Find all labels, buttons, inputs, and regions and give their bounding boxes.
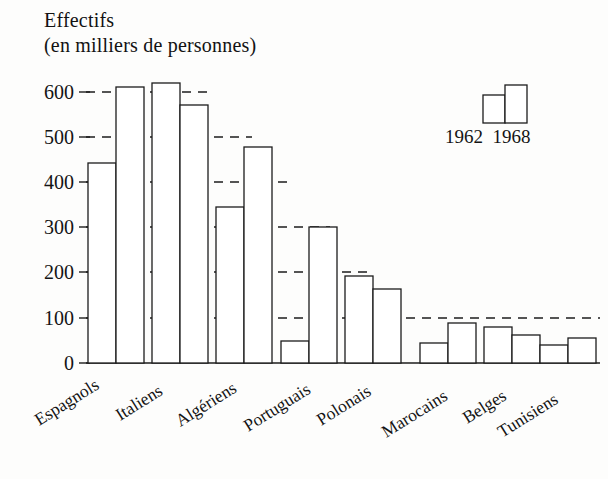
chart-page: Effectifs (en milliers de personnes) [0,0,608,479]
bar-italiens-1962[interactable] [152,83,180,363]
legend-year-labels: 1962 1968 [445,127,531,147]
bar-polonais-1962[interactable] [345,276,373,363]
y-tick-label-0: 0 [12,353,74,373]
bar-marocains-1968[interactable] [448,323,476,363]
bar-group-polonais [345,276,401,363]
bar-group-italiens [152,83,208,363]
bar-group-tunisiens [540,338,596,363]
bar-marocains-1962[interactable] [420,343,448,363]
bar-group-algeriens [216,147,272,363]
bar-group-marocains [420,323,476,363]
y-tick-label-100: 100 [12,308,74,328]
bar-italiens-1968[interactable] [180,105,208,363]
bar-portuguais-1968[interactable] [309,227,337,363]
bar-portuguais-1962[interactable] [281,341,309,363]
legend-swatch-1962 [483,95,505,123]
bar-tunisiens-1968[interactable] [568,338,596,363]
legend-swatch-1968 [505,85,527,123]
bar-algeriens-1968[interactable] [244,147,272,363]
bar-belges-1968[interactable] [512,335,540,363]
y-tick-label-600: 600 [12,82,74,102]
bar-belges-1962[interactable] [484,327,512,363]
bar-espagnols-1962[interactable] [88,163,116,363]
bar-group-espagnols [88,87,144,363]
y-tick-label-400: 400 [12,172,74,192]
legend-swatches [483,85,527,123]
y-tick-label-500: 500 [12,127,74,147]
bar-group-portuguais [281,227,337,363]
bar-group-belges [484,327,540,363]
bar-algeriens-1962[interactable] [216,207,244,363]
bar-chart-plot [0,0,608,479]
bar-tunisiens-1962[interactable] [540,345,568,363]
y-tick-label-200: 200 [12,262,74,282]
y-tick-label-300: 300 [12,217,74,237]
bar-polonais-1968[interactable] [373,289,401,363]
bar-espagnols-1968[interactable] [116,87,144,363]
